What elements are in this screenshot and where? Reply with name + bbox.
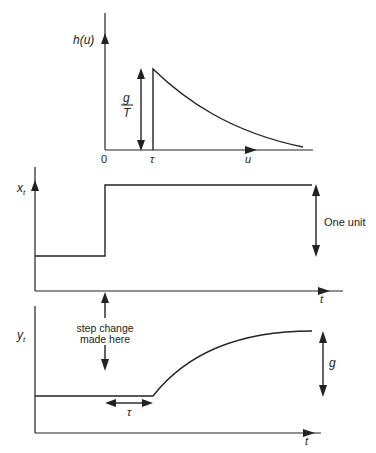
delay-arrow-right-icon [142, 399, 153, 407]
delay-arrow-left-icon [105, 399, 116, 407]
tau-label-top: τ [150, 153, 155, 165]
transfer-function-diagram: h(u) 0 τ u g T xt One unit t step change [0, 0, 376, 453]
one-unit-label: One unit [324, 216, 366, 228]
time-constant-denominator-label: T [123, 106, 132, 120]
step-change-label-line2: made here [80, 333, 130, 345]
step-change-arrow-up-icon [101, 292, 109, 303]
y-axis-label: yt [16, 328, 26, 344]
gain-numerator-label: g [123, 91, 130, 105]
x-y-axis-arrow-icon [31, 180, 39, 191]
step-change-arrow-down-icon [101, 359, 109, 371]
g-over-t-arrow-up-icon [137, 68, 145, 79]
t-axis-label-middle: t [320, 293, 324, 305]
gain-arrow-up-icon [319, 331, 327, 343]
input-step-line [35, 185, 312, 256]
x-axis-label: xt [16, 181, 26, 197]
h-y-axis-arrow-icon [101, 33, 109, 44]
u-axis-label: u [245, 153, 251, 165]
gain-arrow-down-icon [319, 385, 327, 397]
impulse-response-panel: h(u) 0 τ u g T [73, 13, 313, 165]
g-over-t-arrow-down-icon [137, 140, 145, 151]
t-axis-label-bottom: t [305, 435, 309, 447]
input-step-panel: xt One unit t [16, 167, 366, 305]
h-axis-label: h(u) [73, 33, 94, 47]
gain-label: g [329, 356, 336, 370]
origin-label: 0 [101, 153, 107, 165]
one-unit-arrow-up-icon [312, 184, 320, 196]
tau-label-bottom: τ [127, 406, 132, 418]
one-unit-arrow-down-icon [312, 245, 320, 257]
output-response-curve [35, 331, 312, 396]
impulse-response-curve [153, 69, 303, 150]
output-response-panel: step change made here τ g yt t [16, 292, 336, 447]
